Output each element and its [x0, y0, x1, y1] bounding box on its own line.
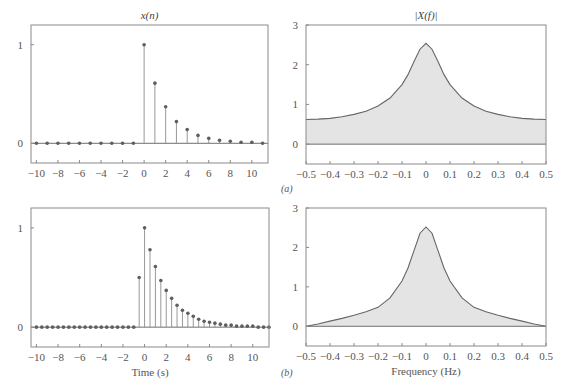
- stem-marker: [94, 325, 98, 329]
- y-tick-label: 3: [293, 19, 299, 31]
- x-tick-label: 0.3: [491, 168, 505, 180]
- stem-marker: [51, 325, 55, 329]
- x-tick-label: −0.5: [296, 168, 316, 180]
- y-tick-label: 2: [293, 241, 299, 253]
- panel-spectrum-b: −0.5−0.4−0.3−0.2−0.100.10.20.30.40.50123…: [293, 202, 554, 378]
- stem-marker: [228, 140, 232, 144]
- y-tick-label: 1: [18, 39, 24, 51]
- x-tick-label: 0.3: [491, 350, 505, 362]
- x-tick-label: −0.1: [392, 350, 412, 362]
- chart-title: x(n): [140, 9, 159, 22]
- stem-marker: [89, 325, 93, 329]
- x-tick-label: 0: [423, 168, 429, 180]
- stem-marker: [256, 325, 260, 329]
- y-tick-label: 1: [293, 281, 299, 293]
- y-tick-label: 1: [293, 98, 299, 110]
- stem-marker: [132, 325, 136, 329]
- stem-marker: [202, 319, 206, 323]
- x-tick-label: 0.5: [539, 168, 553, 180]
- x-tick-label: −0.3: [344, 168, 364, 180]
- stem-marker: [105, 325, 109, 329]
- x-tick-label: 0.1: [443, 168, 457, 180]
- x-tick-label: −6: [74, 351, 86, 363]
- stem-marker: [127, 325, 131, 329]
- stem-marker: [164, 289, 168, 293]
- stem-marker: [132, 141, 136, 145]
- y-tick-label: 2: [293, 59, 299, 71]
- x-tick-label: −0.4: [320, 168, 340, 180]
- y-tick-label: 0: [293, 138, 299, 150]
- stem-marker: [196, 134, 200, 138]
- x-tick-label: 10: [247, 351, 259, 363]
- panel-time-sequence-a: −10−8−6−4−2024681001x(n): [18, 9, 269, 179]
- x-tick-label: 0: [141, 167, 147, 179]
- stem-marker: [121, 325, 125, 329]
- stem-marker: [159, 279, 163, 283]
- y-tick-label: 0: [18, 137, 24, 149]
- stem-marker: [148, 248, 152, 252]
- x-axis-label: Time (s): [131, 366, 169, 379]
- x-tick-label: −8: [52, 167, 64, 179]
- stem-marker: [197, 317, 201, 321]
- x-tick-label: −10: [28, 351, 46, 363]
- stem-marker: [67, 325, 71, 329]
- x-tick-label: 0.1: [443, 350, 457, 362]
- stem-marker: [45, 141, 49, 145]
- stem-marker: [110, 325, 114, 329]
- stem-marker: [78, 325, 82, 329]
- x-tick-label: 0: [423, 350, 429, 362]
- stem-marker: [121, 141, 125, 145]
- x-tick-label: 8: [228, 167, 234, 179]
- panel-label-a: (a): [281, 183, 293, 195]
- stem-marker: [45, 325, 49, 329]
- x-tick-label: −0.5: [296, 350, 316, 362]
- y-tick-label: 0: [18, 321, 24, 333]
- stem-marker: [208, 320, 212, 324]
- stem-marker: [154, 265, 158, 269]
- stem-marker: [185, 128, 189, 132]
- x-tick-label: 0.2: [467, 168, 481, 180]
- x-tick-label: 2: [163, 167, 169, 179]
- axes-frame: [31, 25, 268, 163]
- spectrum-area-fill: [306, 227, 546, 326]
- x-tick-label: −6: [74, 167, 86, 179]
- x-tick-label: 10: [246, 167, 258, 179]
- y-tick-label: 0: [293, 320, 299, 332]
- stem-marker: [99, 141, 103, 145]
- x-tick-label: 4: [184, 167, 190, 179]
- x-tick-label: 0.5: [539, 350, 553, 362]
- x-tick-label: 0.4: [515, 350, 529, 362]
- stem-marker: [110, 141, 114, 145]
- stem-marker: [56, 325, 60, 329]
- stem-marker: [83, 325, 87, 329]
- stem-marker: [181, 308, 185, 312]
- stem-marker: [72, 325, 76, 329]
- spectrum-area-fill: [306, 43, 546, 144]
- stem-marker: [251, 324, 255, 328]
- x-tick-label: −0.2: [368, 168, 388, 180]
- x-tick-label: 8: [228, 351, 234, 363]
- x-tick-label: 0.2: [467, 350, 481, 362]
- x-tick-label: 0: [142, 351, 148, 363]
- stem-marker: [224, 323, 228, 327]
- x-tick-label: −4: [95, 351, 107, 363]
- stem-marker: [207, 137, 211, 141]
- stem-marker: [143, 226, 147, 230]
- stem-marker: [239, 141, 243, 145]
- stem-marker: [78, 141, 82, 145]
- x-axis-label: Frequency (Hz): [391, 365, 461, 378]
- chart-title: |X(f)|: [414, 9, 437, 22]
- stem-marker: [100, 325, 104, 329]
- stem-marker: [67, 141, 71, 145]
- stem-marker: [137, 276, 141, 280]
- stem-marker: [35, 325, 39, 329]
- x-tick-label: −8: [52, 351, 64, 363]
- x-tick-label: 4: [185, 351, 191, 363]
- stem-marker: [40, 325, 44, 329]
- x-tick-label: −2: [117, 167, 129, 179]
- panel-label-b: (b): [281, 367, 293, 379]
- x-tick-label: −10: [28, 167, 46, 179]
- x-tick-label: 6: [207, 351, 213, 363]
- x-tick-label: −0.4: [320, 350, 340, 362]
- stem-marker: [240, 324, 244, 328]
